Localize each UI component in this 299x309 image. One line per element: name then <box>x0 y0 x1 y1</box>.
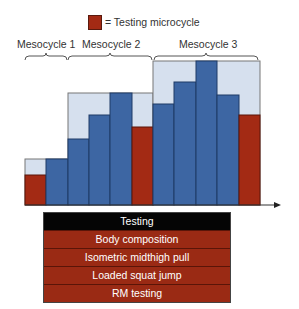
bar-8 <box>174 82 196 205</box>
table-row: Loaded squat jump <box>44 266 230 284</box>
bar-3 <box>68 139 89 205</box>
bar-1 <box>25 175 46 205</box>
bar-4 <box>89 115 110 205</box>
table-row: Body composition <box>44 230 230 248</box>
bar-2 <box>46 159 68 205</box>
bar-10 <box>217 95 239 205</box>
testing-table: Testing Body composition Isometric midth… <box>43 212 231 303</box>
bar-7 <box>153 104 174 205</box>
bar-5 <box>110 93 132 205</box>
mesocycle-braces <box>25 53 258 60</box>
bar-11 <box>239 115 260 205</box>
table-row: Isometric midthigh pull <box>44 248 230 266</box>
bar-9 <box>196 61 217 205</box>
table-row: RM testing <box>44 284 230 302</box>
bar-6 <box>132 127 153 205</box>
table-header: Testing <box>44 213 230 230</box>
